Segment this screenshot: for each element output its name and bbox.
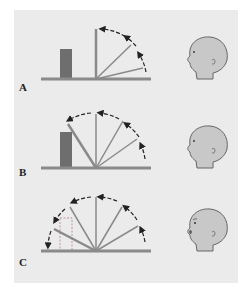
panel-b-scene bbox=[41, 113, 151, 168]
panel-label: C bbox=[19, 256, 27, 268]
rod-trail bbox=[96, 45, 131, 79]
diagram-canvas: A B C bbox=[0, 0, 247, 296]
rotation-arrow bbox=[73, 197, 91, 202]
rod-trail bbox=[96, 139, 137, 168]
rotation-arrow bbox=[141, 145, 145, 159]
rotation-arrow bbox=[100, 197, 117, 201]
rotation-arrow bbox=[102, 29, 130, 40]
rotation-arrow bbox=[126, 124, 139, 137]
rotation-arrow bbox=[125, 207, 137, 220]
infant-head-c-surprised bbox=[188, 209, 228, 251]
rod-trail bbox=[96, 68, 143, 79]
infant-head-a bbox=[188, 37, 228, 79]
rod-trail bbox=[96, 121, 123, 168]
rod bbox=[68, 124, 96, 168]
rotation-arrow bbox=[69, 113, 91, 120]
block bbox=[60, 49, 72, 79]
infant-head-b bbox=[188, 126, 228, 168]
panel-label: A bbox=[19, 81, 27, 93]
panel-label: B bbox=[19, 166, 27, 178]
panel-c-scene bbox=[41, 197, 151, 251]
rotation-arrow bbox=[141, 229, 145, 242]
rod-trail bbox=[96, 207, 122, 251]
block bbox=[60, 132, 72, 168]
rotation-arrow bbox=[48, 231, 51, 246]
rod-trail bbox=[96, 226, 138, 251]
panel-a-scene bbox=[41, 29, 151, 79]
rotation-arrow bbox=[100, 113, 119, 119]
